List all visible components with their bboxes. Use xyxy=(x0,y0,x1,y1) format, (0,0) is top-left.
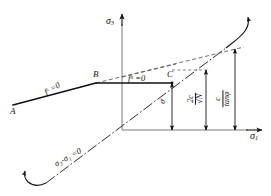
point-label-c: C xyxy=(167,70,173,79)
dimension-label-tension-cutoff: σt xyxy=(159,98,167,103)
point-label-a: A xyxy=(10,107,16,116)
axis-label-horizontal: σ1 xyxy=(250,131,258,142)
dimension-label-uniaxial-strength: 2c √N xyxy=(187,93,205,105)
dimension-label-apex-intercept: c tanφ xyxy=(214,91,232,108)
point-c-marker xyxy=(171,82,174,85)
tension-yield-label: fn =0 xyxy=(128,74,145,83)
axis-label-vertical: σ3 xyxy=(106,16,114,27)
point-label-b: B xyxy=(93,70,99,79)
figure-canvas: σ3 σ1 A B C fs =0 fn =0 σ₃-σ₁ =0 σt 2c √… xyxy=(0,0,271,196)
